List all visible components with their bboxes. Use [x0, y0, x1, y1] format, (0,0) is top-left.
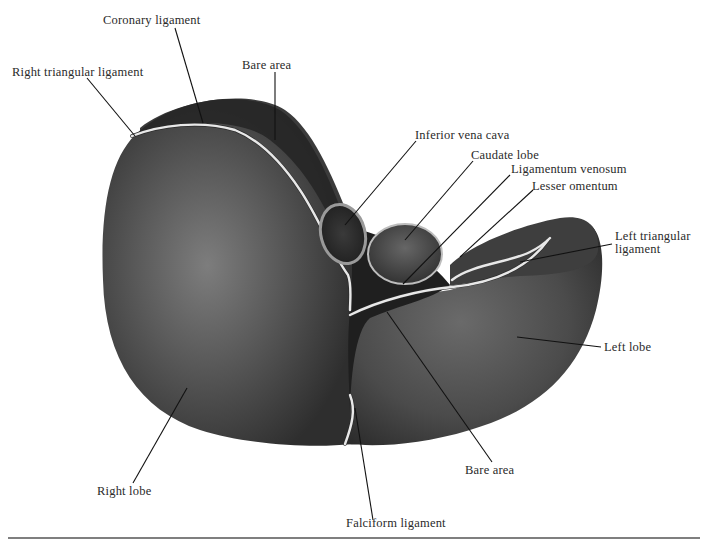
label-left-lobe: Left lobe — [604, 340, 652, 354]
label-falciform-ligament: Falciform ligament — [346, 516, 446, 530]
label-ligamentum-venosum: Ligamentum venosum — [511, 162, 627, 176]
caudate-lobe-shape — [368, 224, 442, 284]
leader-caudate-lobe — [405, 161, 473, 240]
liver-anatomy-diagram: Coronary ligament Right triangular ligam… — [0, 0, 708, 548]
label-left-triangular-ligament-2: ligament — [615, 242, 661, 256]
leader-right-triangular-ligament — [87, 78, 135, 136]
label-coronary-ligament: Coronary ligament — [103, 13, 201, 27]
label-right-lobe: Right lobe — [97, 484, 152, 498]
label-caudate-lobe: Caudate lobe — [471, 148, 539, 162]
leader-inferior-vena-cava — [345, 141, 416, 225]
label-bare-area-top: Bare area — [242, 58, 292, 72]
label-bare-area-bottom: Bare area — [465, 463, 515, 477]
label-inferior-vena-cava: Inferior vena cava — [415, 128, 510, 142]
label-right-triangular-ligament: Right triangular ligament — [12, 65, 144, 79]
label-left-triangular-ligament-1: Left triangular — [615, 229, 691, 243]
label-lesser-omentum: Lesser omentum — [532, 179, 618, 193]
